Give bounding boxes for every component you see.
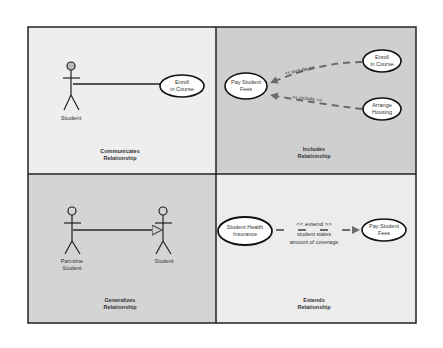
svg-text:Arrange: Arrange [372, 102, 392, 108]
use-case-enroll-in-course-included: Enroll in Course [363, 50, 401, 72]
caption-includes-line1: Includes [303, 146, 325, 152]
svg-text:in Course: in Course [370, 61, 394, 67]
svg-text:Fees: Fees [378, 230, 390, 236]
extend-condition-line1: student states [297, 231, 331, 237]
svg-text:Fees: Fees [240, 86, 252, 92]
svg-text:Part-time: Part-time [61, 258, 83, 264]
caption-includes-line2: Relationship [297, 153, 331, 159]
svg-text:Pay Student: Pay Student [369, 223, 399, 229]
svg-text:in Course: in Course [170, 86, 194, 92]
use-case-student-health-insurance: Student Health Insurance [218, 217, 272, 245]
use-case-pay-student-fees-base: Pay Student Fees [362, 219, 406, 241]
svg-text:Insurance: Insurance [233, 231, 257, 237]
svg-text:Enroll: Enroll [175, 79, 189, 85]
svg-text:Housing: Housing [372, 109, 392, 115]
svg-text:Enroll: Enroll [375, 54, 389, 60]
caption-communicates-line2: Relationship [103, 155, 137, 161]
caption-extends-line2: Relationship [297, 304, 331, 310]
caption-extends-line1: Extends [303, 297, 324, 303]
extend-condition-line2: amount of coverage [290, 239, 339, 245]
use-case-pay-student-fees: Pay Student Fees [225, 73, 267, 99]
svg-text:Student: Student [63, 265, 82, 271]
caption-communicates-line1: Communicates [100, 148, 139, 154]
use-case-diagram: Student Enroll in Course Communicates Re… [0, 0, 443, 348]
use-case-enroll-in-course: Enroll in Course [160, 75, 204, 97]
svg-text:Pay Student: Pay Student [231, 79, 261, 85]
caption-generalizes-line2: Relationship [103, 304, 137, 310]
svg-text:Student Health: Student Health [227, 224, 263, 230]
caption-generalizes-line1: Generalizes [105, 297, 136, 303]
svg-text:Student: Student [155, 258, 174, 264]
use-case-arrange-housing: Arrange Housing [363, 98, 401, 120]
extend-stereotype: << extend >> [296, 221, 332, 227]
actor-label: Student [61, 115, 82, 121]
